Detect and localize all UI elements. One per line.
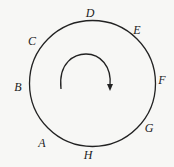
diagram-canvas <box>0 0 174 167</box>
label-f: F <box>158 74 165 86</box>
label-c: C <box>28 35 36 47</box>
label-a: A <box>38 137 45 149</box>
arrowhead-icon <box>107 84 113 91</box>
label-e: E <box>133 24 140 36</box>
clockwise-arrow-icon <box>61 54 111 89</box>
label-d: D <box>86 7 95 19</box>
label-h: H <box>84 149 93 161</box>
label-g: G <box>145 122 154 134</box>
label-b: B <box>14 81 21 93</box>
main-circle <box>30 21 156 147</box>
